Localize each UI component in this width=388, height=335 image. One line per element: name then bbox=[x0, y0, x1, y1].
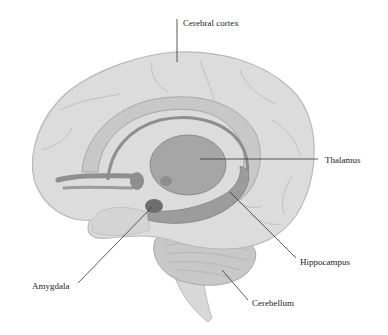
label-cerebral-cortex: Cerebral cortex bbox=[183, 18, 239, 28]
mammillary-body bbox=[130, 172, 144, 190]
label-amygdala: Amygdala bbox=[32, 281, 70, 291]
temporal-lobe bbox=[92, 207, 150, 235]
thalamus-shape bbox=[150, 135, 226, 195]
olfactory-tract-lower bbox=[64, 187, 132, 188]
anterior-commissure bbox=[160, 176, 172, 186]
label-thalamus: Thalamus bbox=[325, 155, 361, 165]
label-hippocampus: Hippocampus bbox=[300, 257, 350, 267]
label-cerebellum: Cerebellum bbox=[252, 298, 294, 308]
